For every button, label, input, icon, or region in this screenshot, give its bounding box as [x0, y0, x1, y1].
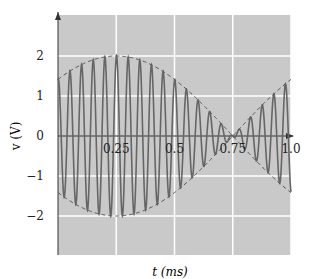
svg-text:0: 0: [36, 129, 44, 143]
svg-text:0.25: 0.25: [103, 142, 130, 156]
svg-text:−1: −1: [26, 169, 44, 183]
svg-text:0.5: 0.5: [165, 142, 184, 156]
svg-text:1.0: 1.0: [281, 142, 300, 156]
x-axis-label: t (ms): [152, 265, 188, 279]
y-axis-label: v (V): [9, 122, 23, 152]
svg-text:2: 2: [36, 49, 44, 63]
svg-text:−2: −2: [26, 209, 44, 223]
svg-text:1: 1: [36, 89, 44, 103]
chart: 210−1−20.250.50.751.0 t (ms) v (V): [0, 0, 311, 279]
svg-text:0.75: 0.75: [219, 142, 246, 156]
